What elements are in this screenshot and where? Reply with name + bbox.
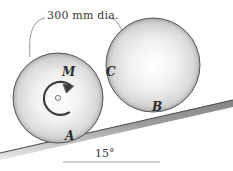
upper-cylinder [106, 18, 200, 112]
lower-cylinder [13, 53, 103, 143]
leader-left [30, 18, 45, 57]
contact-point-label-C: C [106, 66, 116, 78]
contact-point-label-A: A [65, 130, 74, 142]
lower-cylinder-center-hub [55, 95, 60, 100]
statics-figure: 300 mm dia. M A B C 15° [0, 0, 233, 171]
incline-angle-label: 15° [95, 148, 115, 159]
figure-canvas [0, 0, 233, 171]
moment-label-M: M [62, 66, 75, 78]
diameter-dimension-label: 300 mm dia. [47, 10, 119, 21]
contact-point-label-B: B [152, 101, 162, 113]
